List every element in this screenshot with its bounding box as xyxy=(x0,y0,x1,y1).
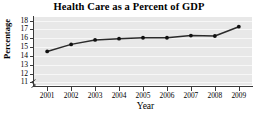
x-tick-label: 2009 xyxy=(226,92,252,100)
chart-title: Health Care as a Percent of GDP xyxy=(0,1,258,12)
data-point xyxy=(117,37,121,41)
axis-break-icon xyxy=(30,79,38,88)
data-point xyxy=(141,36,145,40)
data-point xyxy=(45,50,49,54)
x-tick-label: 2007 xyxy=(178,92,204,100)
y-tick-mark xyxy=(30,21,34,22)
y-tick-mark xyxy=(30,82,34,83)
x-tick-label: 2005 xyxy=(130,92,156,100)
y-tick-label: 16 xyxy=(14,34,28,42)
x-tick-label: 2002 xyxy=(58,92,84,100)
y-tick-mark xyxy=(30,47,34,48)
data-point xyxy=(213,34,217,38)
y-tick-label: 11 xyxy=(14,78,28,86)
x-tick-label: 2006 xyxy=(154,92,180,100)
y-tick-label: 12 xyxy=(14,70,28,78)
y-tick-label: 17 xyxy=(14,25,28,33)
x-tick-label: 2003 xyxy=(82,92,108,100)
y-axis-title: Percentage xyxy=(2,11,12,67)
y-tick-mark xyxy=(30,56,34,57)
x-axis-title: Year xyxy=(33,101,258,111)
y-tick-label: 13 xyxy=(14,61,28,69)
y-tick-mark xyxy=(30,65,34,66)
y-tick-mark xyxy=(30,29,34,30)
y-tick-mark xyxy=(30,38,34,39)
x-tick-label: 2008 xyxy=(202,92,228,100)
chart-container: Health Care as a Percent of GDP Percenta… xyxy=(0,0,258,114)
x-tick-label: 2001 xyxy=(34,92,60,100)
y-tick-mark xyxy=(30,74,34,75)
data-point xyxy=(237,25,241,29)
y-tick-label: 14 xyxy=(14,52,28,60)
data-point xyxy=(189,34,193,38)
y-tick-label: 15 xyxy=(14,43,28,51)
data-point xyxy=(165,36,169,40)
y-tick-label: 18 xyxy=(14,17,28,25)
data-markers xyxy=(45,25,240,54)
data-point xyxy=(69,42,73,46)
data-point xyxy=(93,38,97,42)
x-tick-label: 2004 xyxy=(106,92,132,100)
y-axis-line xyxy=(33,16,34,87)
data-series-layer xyxy=(34,17,252,85)
